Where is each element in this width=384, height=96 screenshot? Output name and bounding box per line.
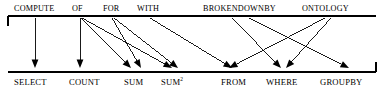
ontology-to-from: [229, 18, 325, 68]
brokendownby-to-groupby-arrowhead: [340, 61, 349, 68]
brokendownby-to-whereleft-shaft: [232, 18, 275, 62]
label-superscript: 2: [180, 76, 183, 82]
mapping-diagram-figure: COMPUTEOFFORWITHBROKENDOWNBYONTOLOGY SEL…: [0, 0, 384, 96]
brokendownby-to-whereleft-arrowhead: [273, 60, 281, 68]
ontology-to-where-arrowhead: [286, 59, 294, 68]
of-to-sum-shaft: [81, 18, 125, 62]
brokendownby-to-groupby-shaft: [249, 18, 341, 64]
top-keyword-ontology: ONTOLOGY: [302, 4, 349, 13]
label-text: GROUPBY: [320, 77, 362, 87]
rails-group: [8, 16, 376, 72]
edges-group: [32, 18, 349, 68]
for-to-sum2-arrowhead: [169, 60, 178, 68]
ontology-to-from-arrowhead: [229, 61, 238, 68]
of-to-sum2: [82, 18, 172, 68]
label-text: BROKENDOWNBY: [203, 4, 276, 13]
compute-to-select-arrowhead: [32, 60, 39, 69]
sql-keyword-count: COUNT: [69, 77, 100, 87]
compute-to-select: [32, 18, 39, 68]
for-to-sum-arrowhead: [134, 59, 141, 68]
with-to-from: [150, 18, 232, 68]
label-text: SELECT: [14, 77, 47, 87]
of-to-count-arrowhead: [77, 60, 84, 69]
sql-keyword-groupby: GROUPBY: [320, 77, 362, 87]
of-to-sum2-shaft: [82, 18, 165, 64]
for-to-sum2-shaft: [114, 18, 171, 63]
brokendownby-to-groupby: [249, 18, 349, 68]
label-text: WITH: [137, 4, 159, 13]
of-to-sum2-arrowhead: [163, 61, 172, 68]
top-keyword-of: OF: [72, 4, 83, 13]
label-text: COMPUTE: [14, 4, 55, 13]
top-keyword-brokendownby: BROKENDOWNBY: [203, 4, 276, 13]
label-text: OF: [72, 4, 83, 13]
for-to-sum2: [114, 18, 178, 68]
label-text: ONTOLOGY: [302, 4, 349, 13]
with-to-from-arrowhead: [223, 61, 232, 68]
of-to-sum: [81, 18, 131, 68]
sql-keyword-sum: SUM: [124, 77, 143, 87]
label-text: COUNT: [69, 77, 100, 87]
sql-keyword-where: WHERE: [266, 77, 298, 87]
ontology-to-from-shaft: [237, 18, 325, 64]
label-text: FROM: [221, 77, 246, 87]
sql-keyword-from: FROM: [221, 77, 246, 87]
sql-keyword-sum2: SUM2: [161, 77, 183, 87]
sql-keyword-select: SELECT: [14, 77, 47, 87]
ontology-to-where: [286, 18, 331, 68]
top-keyword-compute: COMPUTE: [14, 4, 55, 13]
of-to-count: [77, 18, 84, 68]
with-to-from-shaft: [150, 18, 225, 64]
label-text: WHERE: [266, 77, 298, 87]
of-to-sum-arrowhead: [123, 60, 131, 68]
top-keyword-with: WITH: [137, 4, 159, 13]
label-text: SUM: [124, 77, 143, 87]
for-to-sum: [112, 18, 141, 68]
label-text: FOR: [103, 4, 120, 13]
ontology-to-where-shaft: [292, 18, 331, 62]
label-text: SUM: [161, 77, 180, 87]
brokendownby-to-whereleft: [232, 18, 281, 68]
for-to-sum-shaft: [112, 18, 137, 61]
top-keyword-for: FOR: [103, 4, 120, 13]
